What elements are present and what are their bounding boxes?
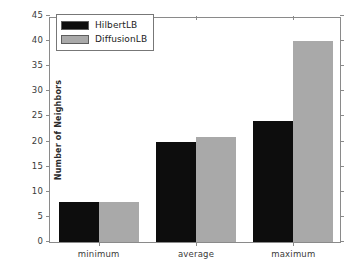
y-axis-tick-mark-right xyxy=(340,40,344,41)
x-axis-tick-mark-top xyxy=(293,16,294,20)
legend-label-diffusionlb: DiffusionLB xyxy=(95,34,147,44)
y-axis-tick-mark-right xyxy=(340,90,344,91)
legend-item-diffusionlb: DiffusionLB xyxy=(61,32,147,46)
y-axis-tick-mark-right xyxy=(340,216,344,217)
y-axis-tick-mark-right xyxy=(340,15,344,16)
y-axis-tick-label: 0 xyxy=(37,236,43,246)
legend: HilbertLB DiffusionLB xyxy=(56,14,154,51)
legend-label-hilbertlb: HilbertLB xyxy=(95,20,137,30)
bar-average-diffusionlb xyxy=(196,137,236,242)
y-axis-tick-label: 35 xyxy=(32,60,43,70)
y-axis-tick-mark xyxy=(46,166,50,167)
y-axis-tick-mark-right xyxy=(340,166,344,167)
y-axis-tick-mark xyxy=(46,15,50,16)
y-axis-tick-label: 40 xyxy=(32,35,43,45)
y-axis-tick-mark xyxy=(46,115,50,116)
y-axis-tick-label: 5 xyxy=(37,211,43,221)
y-axis-tick-mark xyxy=(46,65,50,66)
y-axis-tick-mark-right xyxy=(340,65,344,66)
y-axis-tick-mark-right xyxy=(340,115,344,116)
y-axis-tick-mark xyxy=(46,191,50,192)
bar-maximum-diffusionlb xyxy=(293,41,333,242)
y-axis-tick-mark xyxy=(46,40,50,41)
y-axis-tick-label: 45 xyxy=(32,10,43,20)
y-axis-tick-label: 15 xyxy=(32,161,43,171)
y-axis-tick-mark-right xyxy=(340,141,344,142)
y-axis-tick-label: 25 xyxy=(32,110,43,120)
bar-minimum-diffusionlb xyxy=(99,202,139,242)
x-axis-tick-label: minimum xyxy=(78,249,120,259)
bar-average-hilbertlb xyxy=(156,142,196,242)
y-axis-label-container: Number of Neighbors xyxy=(10,17,22,243)
x-axis-tick-label: maximum xyxy=(271,249,315,259)
y-axis-tick-mark xyxy=(46,241,50,242)
y-axis-tick-mark xyxy=(46,216,50,217)
y-axis-tick-label: 30 xyxy=(32,85,43,95)
x-axis-tick-mark xyxy=(99,242,100,246)
legend-item-hilbertlb: HilbertLB xyxy=(61,18,147,32)
y-axis-tick-label: 10 xyxy=(32,186,43,196)
y-axis-tick-mark-right xyxy=(340,191,344,192)
x-axis-tick-mark-top xyxy=(196,16,197,20)
bar-maximum-hilbertlb xyxy=(253,121,293,242)
bar-minimum-hilbertlb xyxy=(59,202,99,242)
x-axis-tick-mark xyxy=(196,242,197,246)
plot-inner: 051015202530354045minimumaveragemaximum xyxy=(50,18,340,242)
y-axis-tick-mark xyxy=(46,90,50,91)
y-axis-tick-mark-right xyxy=(340,241,344,242)
y-axis-tick-label: 20 xyxy=(32,136,43,146)
legend-swatch-hilbertlb xyxy=(61,21,89,30)
y-axis-tick-mark xyxy=(46,141,50,142)
bar-chart-figure: Number of Neighbors 051015202530354045mi… xyxy=(0,0,356,273)
x-axis-tick-mark xyxy=(293,242,294,246)
legend-swatch-diffusionlb xyxy=(61,35,89,44)
x-axis-tick-label: average xyxy=(178,249,214,259)
